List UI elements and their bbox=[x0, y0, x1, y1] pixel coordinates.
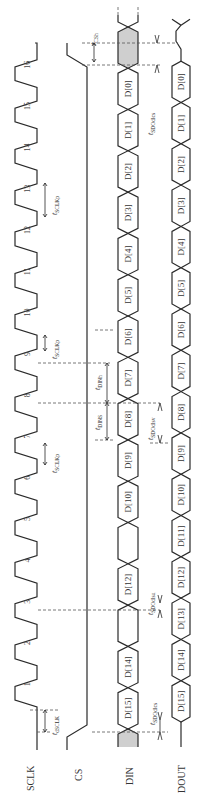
din-bus: D[15]D[14]D[12]D[10]D[9]D[8]D[7]D[6]D[5]… bbox=[118, 5, 138, 747]
dout-bus: D[15]D[14]D[13]D[12]D[11]D[10]D[9]D[8]D[… bbox=[172, 19, 190, 747]
bit-label: D[0] bbox=[176, 73, 186, 90]
svg-text:tSDOdlsu: tSDOdlsu bbox=[146, 592, 156, 615]
t-sdodlsu-annotation-a: tSDOdlsu bbox=[146, 592, 162, 618]
bit-label: D[8] bbox=[123, 411, 133, 428]
clock-pulse-number: 8 bbox=[23, 393, 32, 397]
bit-label: D[2] bbox=[123, 163, 133, 180]
t-sclkp-annotation-12: tSCLKp bbox=[43, 183, 60, 217]
clock-pulse-number: 16 bbox=[23, 61, 32, 69]
t-sdodlcs-end-annotation: tSDOdlcs bbox=[146, 35, 159, 135]
t-dins-dinh-annotation: tDINS tDINh bbox=[93, 363, 109, 440]
svg-text:tDINS: tDINS bbox=[93, 415, 103, 430]
svg-text:tSCLKp: tSCLKp bbox=[50, 454, 60, 473]
clock-pulse-number: 6 bbox=[23, 476, 32, 480]
svg-text:tSDOdlcs: tSDOdlcs bbox=[146, 113, 156, 135]
svg-text:tSCLKp: tSCLKp bbox=[50, 196, 60, 215]
reference-dashes bbox=[30, 43, 178, 732]
bit-label: D[12] bbox=[123, 574, 133, 596]
bit-label: D[1] bbox=[176, 115, 186, 132]
bit-label: D[10] bbox=[176, 484, 186, 506]
t-sdodlsv-annotation: tSDOdlsv bbox=[146, 403, 162, 443]
bit-label: D[12] bbox=[176, 567, 186, 589]
bit-label: D[14] bbox=[176, 649, 186, 671]
bit-label: D[4] bbox=[176, 239, 186, 256]
clock-pulse-number: 7 bbox=[23, 434, 32, 438]
bit-label: D[14] bbox=[123, 656, 133, 678]
bit-label: D[7] bbox=[176, 362, 186, 379]
bit-label: D[6] bbox=[123, 328, 133, 345]
bit-label: D[3] bbox=[123, 204, 133, 221]
bit-label: D[5] bbox=[176, 280, 186, 297]
bit-label: D[4] bbox=[123, 246, 133, 263]
signal-labels: SCLK CS DIN DOUT bbox=[25, 765, 187, 793]
bit-label: D[7] bbox=[123, 369, 133, 386]
clock-pulse-number: 3 bbox=[23, 600, 32, 604]
clock-pulse-number: 2 bbox=[23, 641, 32, 645]
t-sclkp-annotation-7: tSCLKp bbox=[43, 443, 60, 473]
clock-pulse-number: 5 bbox=[23, 517, 32, 521]
timing-diagram: SCLK CS DIN DOUT 12345678910111213141516… bbox=[0, 0, 204, 795]
t-sdodlcs-annotation: tSDOdlcs bbox=[148, 703, 162, 740]
label-cs: CS bbox=[73, 769, 84, 781]
bit-label: D[15] bbox=[123, 698, 133, 720]
svg-text:tdSCLK: tdSCLK bbox=[50, 716, 60, 735]
label-din: DIN bbox=[124, 767, 135, 785]
bit-label: D[8] bbox=[176, 404, 186, 421]
clock-pulse-number: 13 bbox=[23, 185, 32, 193]
svg-text:tSDOdlcs: tSDOdlcs bbox=[148, 703, 158, 725]
bit-label: D[13] bbox=[176, 608, 186, 630]
bit-label: D[9] bbox=[176, 445, 186, 462]
clock-pulse-number: 14 bbox=[23, 143, 32, 151]
bit-label: D[15] bbox=[176, 691, 186, 713]
bit-label: D[10] bbox=[123, 491, 133, 512]
label-dout: DOUT bbox=[176, 765, 187, 793]
label-sclk: SCLK bbox=[25, 765, 36, 791]
timing-diagram-svg: SCLK CS DIN DOUT 12345678910111213141516… bbox=[0, 0, 204, 795]
svg-text:tSCLKp: tSCLKp bbox=[50, 340, 60, 359]
clock-pulse-number: 1 bbox=[23, 682, 32, 686]
bit-label: D[5] bbox=[123, 287, 133, 304]
bit-label: D[9] bbox=[123, 452, 133, 469]
bit-label: D[3] bbox=[176, 197, 186, 214]
svg-text:tDINh: tDINh bbox=[93, 375, 103, 390]
clock-pulse-number: 15 bbox=[23, 102, 32, 110]
bit-label: D[0] bbox=[123, 80, 133, 97]
clock-pulse-number: 12 bbox=[23, 226, 32, 234]
cs-waveform bbox=[67, 43, 87, 750]
bit-label: D[6] bbox=[176, 321, 186, 338]
bit-label: D[11] bbox=[176, 526, 186, 547]
bit-label: D[1] bbox=[123, 122, 133, 139]
t-csh-annotation: tCSh bbox=[89, 33, 99, 62]
bit-label: D[2] bbox=[176, 156, 186, 173]
clock-pulse-number: 4 bbox=[23, 558, 32, 562]
timing-annotations: tdSCLK tSCLKp tSCLKp tSCLKp bbox=[43, 33, 162, 740]
t-sclkp-annotation-9: tSCLKp bbox=[43, 335, 60, 359]
clock-pulse-number: 10 bbox=[23, 309, 32, 317]
svg-text:tCSh: tCSh bbox=[89, 33, 99, 45]
clock-pulse-number: 9 bbox=[23, 352, 32, 356]
svg-text:tSDOdlsv: tSDOdlsv bbox=[146, 417, 156, 440]
clock-pulse-number: 11 bbox=[23, 267, 32, 275]
t-dsclk-annotation: tdSCLK bbox=[43, 710, 60, 735]
